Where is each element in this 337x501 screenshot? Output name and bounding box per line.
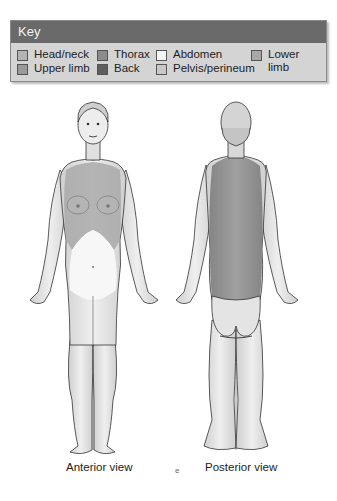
stray-mark: e	[175, 466, 179, 475]
key-title: Key	[11, 21, 326, 43]
key-label: Pelvis/perineum	[173, 62, 255, 75]
swatch-pelvis-perineum	[156, 64, 167, 75]
key-item-abdomen: Abdomen	[156, 48, 222, 61]
key-label: Abdomen	[173, 48, 222, 61]
key-item-pelvis-perineum: Pelvis/perineum	[156, 62, 255, 75]
key-label-line1: Lower	[268, 48, 299, 60]
key-label: Upper limb	[34, 62, 90, 75]
key-label: Lower limb	[268, 48, 299, 74]
key-item-upper-limb: Upper limb	[17, 62, 90, 75]
body-regions-illustration	[0, 88, 337, 458]
key-item-back: Back	[97, 62, 140, 75]
key-body: Head/neck Upper limb Thorax Back Abdomen…	[11, 43, 326, 81]
swatch-head-neck	[17, 50, 28, 61]
key-label: Thorax	[114, 48, 150, 61]
posterior-figure	[176, 102, 298, 450]
key-item-lower-limb: Lower limb	[251, 48, 299, 74]
swatch-thorax	[97, 50, 108, 61]
posterior-view-caption: Posterior view	[205, 461, 277, 473]
key-item-thorax: Thorax	[97, 48, 150, 61]
swatch-abdomen	[156, 50, 167, 61]
key-legend: Key Head/neck Upper limb Thorax Back Abd…	[10, 20, 327, 82]
swatch-back	[97, 64, 108, 75]
key-label-line2: limb	[268, 61, 289, 73]
swatch-upper-limb	[17, 64, 28, 75]
anterior-figure	[30, 102, 158, 454]
key-item-head-neck: Head/neck	[17, 48, 89, 61]
swatch-lower-limb	[251, 50, 262, 61]
anterior-view-caption: Anterior view	[66, 461, 132, 473]
key-label: Back	[114, 62, 140, 75]
key-label: Head/neck	[34, 48, 89, 61]
